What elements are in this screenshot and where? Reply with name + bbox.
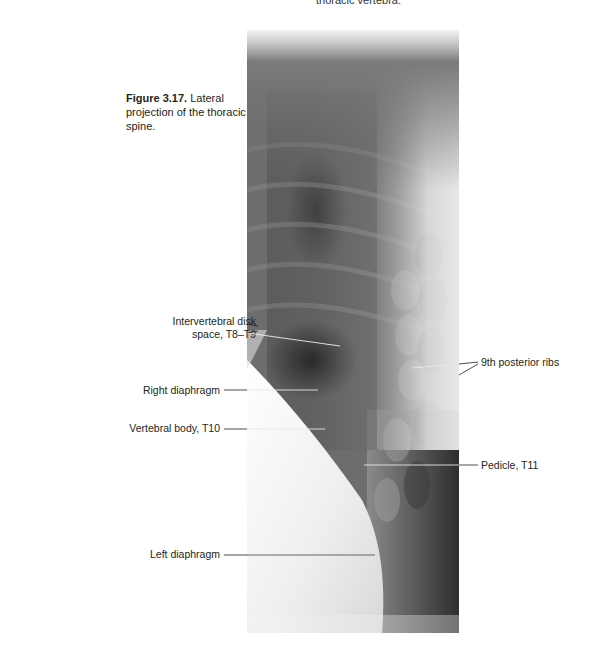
label-vertebral-body-text: Vertebral body, T10 — [129, 422, 220, 434]
label-right-diaphragm-text: Right diaphragm — [143, 384, 220, 396]
figure-caption: Figure 3.17. Lateral projection of the t… — [126, 91, 256, 133]
label-intervertebral-disk-line1: Intervertebral disk — [140, 315, 256, 328]
leader-posterior-ribs-outer-a — [459, 362, 478, 364]
label-left-diaphragm: Left diaphragm — [120, 548, 220, 561]
label-intervertebral-disk: Intervertebral disk space, T8–T9 — [140, 315, 256, 341]
running-header: thoracic vertebra. — [316, 0, 401, 6]
leader-posterior-ribs-outer-b — [459, 364, 478, 375]
label-right-diaphragm: Right diaphragm — [120, 384, 220, 397]
label-vertebral-body: Vertebral body, T10 — [100, 422, 220, 435]
label-posterior-ribs: 9th posterior ribs — [481, 356, 559, 369]
label-pedicle-text: Pedicle, T11 — [481, 459, 538, 471]
figure-number: Figure 3.17. — [126, 92, 187, 104]
label-posterior-ribs-text: 9th posterior ribs — [481, 356, 559, 368]
label-intervertebral-disk-line2: space, T8–T9 — [140, 328, 256, 341]
xray-image — [247, 30, 459, 633]
label-left-diaphragm-text: Left diaphragm — [150, 548, 220, 560]
label-pedicle: Pedicle, T11 — [481, 459, 538, 472]
